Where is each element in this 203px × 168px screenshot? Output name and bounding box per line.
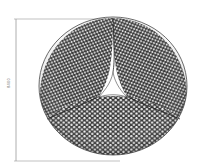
dimension-label: 8400 (6, 78, 11, 88)
diagram-canvas (0, 0, 203, 168)
